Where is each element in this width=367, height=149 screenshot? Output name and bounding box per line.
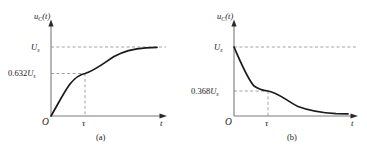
tau-tick-label-a: τ <box>82 119 85 128</box>
level-label-tau-a: 0.632Us <box>8 69 36 79</box>
panel-caption-a: (a) <box>96 133 105 142</box>
figure-container: uC(t) t O τ Us 0.632Us (a) uC(t) t <box>0 0 367 149</box>
tau-tick-label-b: τ <box>265 119 268 128</box>
panel-caption-b: (b) <box>287 133 297 142</box>
level-label-us-a: Us <box>31 43 39 53</box>
discharging-curve-path <box>234 47 348 114</box>
origin-label-a: O <box>42 118 49 128</box>
chart-panel-a: uC(t) t O τ Us 0.632Us (a) <box>0 0 183 149</box>
x-axis-label-a: t <box>160 119 163 128</box>
chart-b-svg <box>184 0 367 149</box>
level-label-tau-b: 0.368Us <box>191 87 219 97</box>
y-axis-label-b: uC(t) <box>217 12 233 22</box>
chart-panel-b: uC(t) t O τ Us 0.368Us (b) <box>184 0 367 149</box>
y-axis-label-a: uC(t) <box>34 12 50 22</box>
charging-curve-path <box>51 47 157 116</box>
x-axis-label-b: t <box>351 119 354 128</box>
origin-label-b: O <box>225 118 232 128</box>
level-label-us-b: Us <box>214 43 222 53</box>
